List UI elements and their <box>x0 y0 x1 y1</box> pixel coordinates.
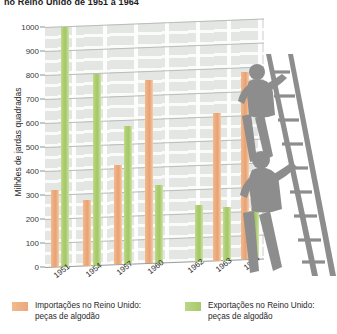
bar-group <box>114 24 136 264</box>
y-axis-tick-label: 600 <box>26 119 39 128</box>
bar <box>83 200 91 266</box>
y-axis-tick-label: 700 <box>26 95 39 104</box>
legend-label-exports: Exportações no Reino Unido: peças de alg… <box>208 300 315 322</box>
bar-group <box>51 27 73 267</box>
y-axis-tick-label: 100 <box>26 239 39 248</box>
y-axis-tick-label: 1000 <box>21 23 39 32</box>
bar <box>155 185 163 263</box>
y-axis-tick-label: 400 <box>26 167 39 176</box>
bar-chart: no Reino Unido de 1951 a 1964 Milhões de… <box>0 0 337 334</box>
bar <box>213 113 221 261</box>
y-axis-tick-label: 0 <box>35 263 39 272</box>
y-axis-tick-label: 200 <box>26 215 39 224</box>
bar <box>61 27 69 267</box>
two-workers-on-ladder-illustration <box>232 48 337 278</box>
bar-group <box>145 23 167 263</box>
legend-item-imports: Importações no Reino Unido: peças de alg… <box>12 300 141 322</box>
legend-swatch-imports-icon <box>12 302 28 311</box>
bar <box>195 205 203 261</box>
legend: Importações no Reino Unido: peças de alg… <box>0 300 337 334</box>
y-axis-tick-label: 300 <box>26 191 39 200</box>
bar-group <box>185 22 207 262</box>
bar <box>51 190 59 267</box>
bar <box>223 207 231 261</box>
bar <box>124 126 132 264</box>
bar <box>145 80 153 264</box>
y-axis-tick-label: 900 <box>26 47 39 56</box>
bar <box>114 165 122 265</box>
y-axis-tick-label: 500 <box>26 143 39 152</box>
legend-label-imports: Importações no Reino Unido: peças de alg… <box>35 300 141 322</box>
bar-group <box>83 26 105 266</box>
legend-item-exports: Exportações no Reino Unido: peças de alg… <box>185 300 315 322</box>
chart-title: no Reino Unido de 1951 a 1964 <box>4 0 139 7</box>
legend-swatch-exports-icon <box>185 302 201 311</box>
bar <box>93 74 101 266</box>
y-axis-label: Milhões de jardas quadradas <box>13 62 23 222</box>
y-axis-tick-label: 800 <box>26 71 39 80</box>
y-axis: Milhões de jardas quadradas 010020030040… <box>0 27 45 268</box>
